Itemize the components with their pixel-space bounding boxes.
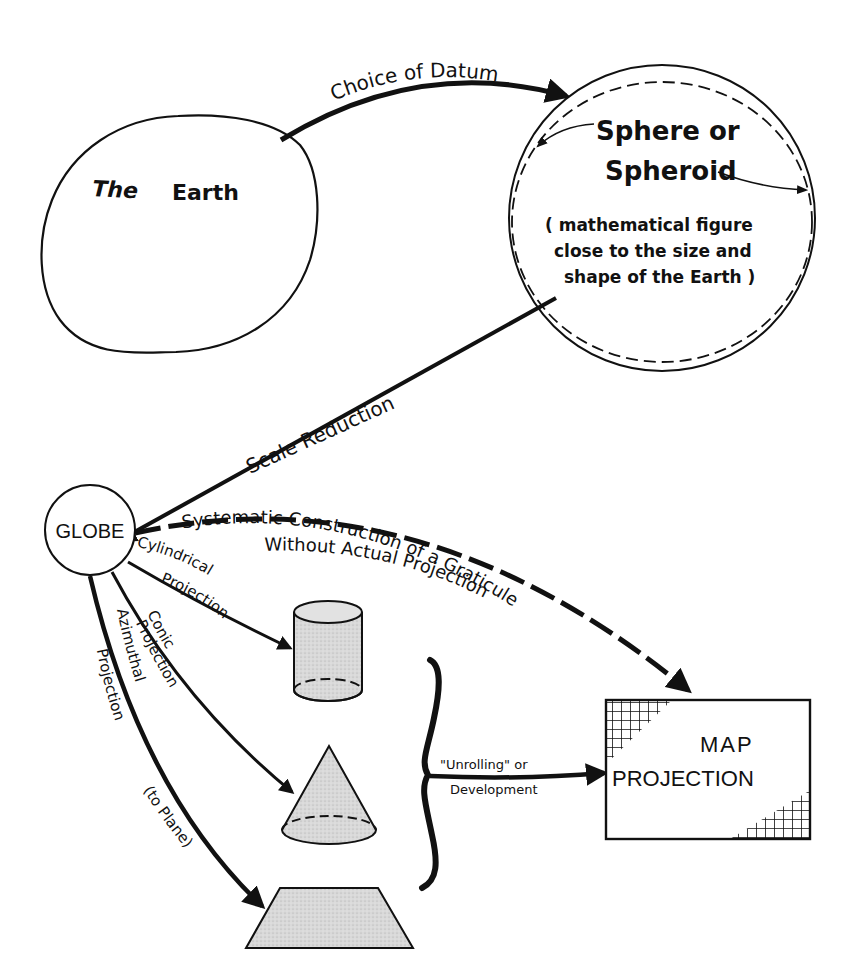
earth-label-the: The xyxy=(92,176,139,203)
datum-label: Choice of Datum xyxy=(327,58,501,105)
sphere-desc-3: shape of the Earth ) xyxy=(564,267,755,287)
unroll-label-1: "Unrolling" or xyxy=(440,757,528,772)
map-projection-diagram: The Earth Choice of Datum Sphere or Sphe… xyxy=(0,0,848,974)
sphere-title-1: Sphere or xyxy=(596,116,740,146)
sphere-node: Sphere or Spheroid ( mathematical figure… xyxy=(509,65,815,371)
map-projection-node: MAP PROJECTION xyxy=(606,700,810,840)
unroll-label-2: Development xyxy=(450,782,538,797)
cylindrical-label-2: Projection xyxy=(159,569,233,622)
datum-edge: Choice of Datum xyxy=(281,58,566,140)
map-label-2: PROJECTION xyxy=(612,766,754,791)
map-label-1: MAP xyxy=(700,732,754,757)
unroll-edge: "Unrolling" or Development xyxy=(430,757,604,797)
earth-node: The Earth xyxy=(42,115,318,352)
plane-shape xyxy=(246,888,413,948)
sphere-title-2: Spheroid xyxy=(605,156,737,186)
globe-node: GLOBE xyxy=(45,485,135,575)
earth-label-earth: Earth xyxy=(172,180,239,205)
cylinder-shape xyxy=(294,601,362,701)
sphere-desc-1: ( mathematical figure xyxy=(545,215,753,235)
cone-shape xyxy=(282,746,376,844)
globe-label: GLOBE xyxy=(56,520,125,542)
sphere-desc-2: close to the size and xyxy=(554,241,752,261)
graticule-label-2: Without Actual Projection xyxy=(264,534,492,602)
scale-label: Scale Reduction xyxy=(242,390,398,478)
